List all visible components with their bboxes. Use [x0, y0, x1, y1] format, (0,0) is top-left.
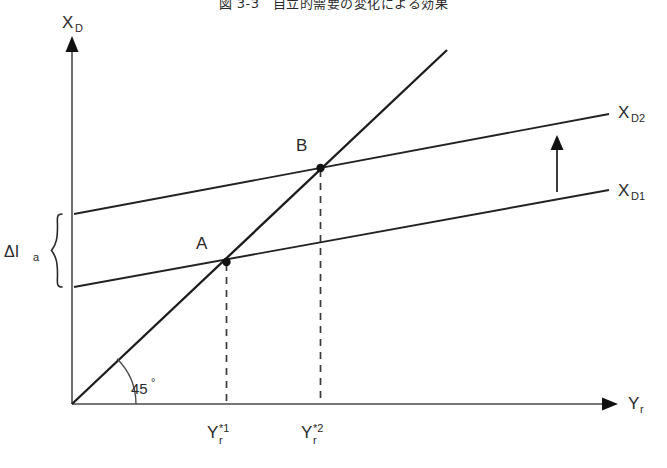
delta-brace-path [52, 214, 63, 287]
equilibrium-income-1-subscript: r [219, 434, 223, 446]
equilibrium-income-2-subscript: r [313, 434, 317, 446]
figure-container: 図 3-3 自立的需要の変化による効果 [0, 0, 667, 468]
demand-schedule-2-line [74, 114, 609, 214]
forty-five-degree-line [72, 50, 447, 404]
x-axis-arrowhead [602, 398, 618, 411]
y-axis-label-subscript: D [75, 22, 83, 34]
y-axis-label: X [62, 13, 73, 32]
y-axis-arrowhead [66, 36, 79, 52]
x-axis-label-group: Y r [628, 394, 644, 415]
x-axis-label: Y [628, 394, 639, 413]
equilibrium-income-1-label-group: Y *1 r [207, 422, 229, 446]
autonomous-shift-label-subscript: a [33, 251, 40, 263]
demand-schedule-1-label-subscript: D1 [631, 190, 645, 202]
x-axis-group [72, 398, 618, 411]
demand-schedule-2-label-group: X D2 [618, 103, 645, 124]
equilibrium-income-2-superscript: *2 [313, 422, 323, 434]
x-axis-label-subscript: r [640, 403, 644, 415]
shift-arrow-head [551, 135, 564, 150]
equilibrium-point-b-label: B [296, 136, 307, 155]
keynesian-cross-diagram: X D Y r X D2 X D1 A B 45 ° ΔI a [0, 0, 667, 468]
equilibrium-point-a-dot [222, 258, 230, 266]
equilibrium-income-2-label-group: Y *2 r [301, 422, 323, 446]
shift-arrow-group [551, 135, 564, 192]
degree-symbol: ° [151, 376, 155, 388]
equilibrium-point-b-dot [316, 164, 324, 172]
angle-label-group: 45 ° [131, 376, 155, 397]
equilibrium-income-2-base: Y [301, 423, 312, 442]
demand-schedule-1-line [74, 190, 609, 287]
y-axis-group [66, 36, 79, 404]
angle-label: 45 [131, 380, 148, 397]
autonomous-shift-label-group: ΔI a [4, 243, 40, 263]
autonomous-shift-label: ΔI [4, 243, 19, 260]
demand-schedule-2-label: X [618, 103, 629, 122]
demand-schedule-1-label-group: X D1 [618, 181, 645, 202]
equilibrium-income-1-base: Y [207, 423, 218, 442]
y-axis-label-group: X D [62, 13, 83, 34]
equilibrium-point-a-label: A [196, 234, 208, 253]
delta-brace [52, 214, 63, 287]
demand-schedule-1-label: X [618, 181, 629, 200]
demand-schedule-2-label-subscript: D2 [631, 112, 645, 124]
equilibrium-income-1-superscript: *1 [219, 422, 229, 434]
